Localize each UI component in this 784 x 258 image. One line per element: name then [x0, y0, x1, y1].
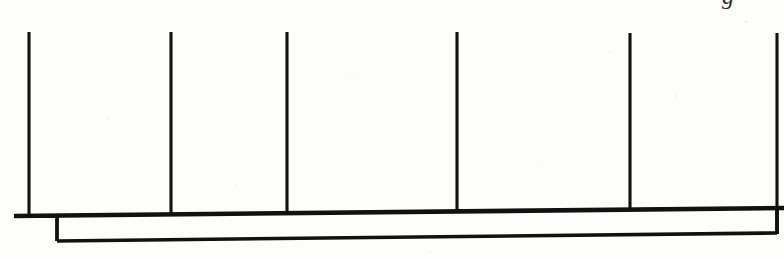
elevation-line-drawing: g	[0, 0, 784, 258]
paper-background	[0, 0, 784, 258]
scan-speckle-9	[429, 251, 430, 252]
scan-speckle-2	[351, 73, 352, 74]
scan-speckle-5	[235, 185, 236, 186]
figure-root: g	[0, 0, 784, 258]
scan-speckle-3	[539, 159, 540, 160]
scan-speckle-1	[107, 117, 108, 118]
scan-speckle-4	[675, 95, 676, 96]
cropped-descender-glyph: g	[722, 0, 734, 9]
scan-speckle-7	[745, 21, 747, 23]
scan-speckle-8	[95, 247, 96, 248]
scan-speckle-6	[609, 51, 610, 52]
